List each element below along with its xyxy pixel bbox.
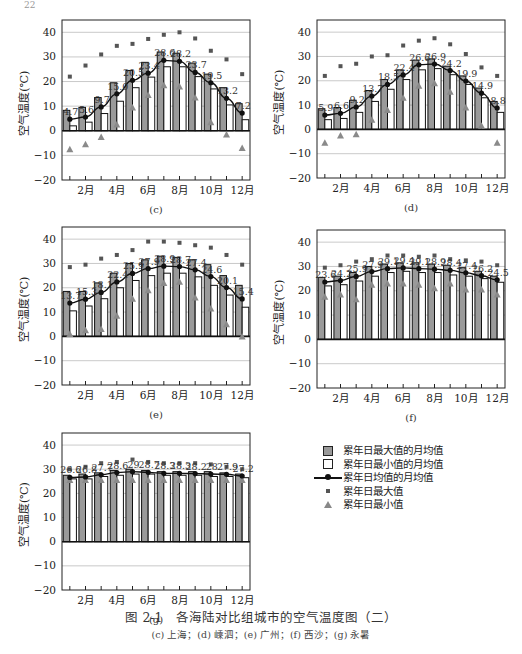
- x-tick-label: 2月: [332, 182, 349, 194]
- mean-point: [463, 78, 468, 83]
- y-axis-label: 空气温度(℃): [17, 482, 31, 547]
- x-tick-label: 8月: [426, 182, 443, 194]
- x-tick-label: 6月: [395, 182, 412, 194]
- extreme-max-marker: [323, 74, 327, 78]
- bar-max-mean: [173, 53, 180, 131]
- mean-point: [432, 61, 437, 66]
- extreme-max-marker: [131, 42, 135, 46]
- bar-max-mean: [236, 474, 243, 542]
- extreme-max-marker: [417, 39, 421, 43]
- bar-min-mean: [211, 476, 218, 541]
- extreme-max-marker: [225, 57, 229, 61]
- y-tick-label: −10: [34, 149, 56, 161]
- bar-min-mean: [356, 112, 363, 129]
- legend-item-daily-mean: 累年日均值的月均值: [313, 471, 443, 485]
- x-tick-label: 12月: [230, 594, 253, 606]
- x-tick-label: 2月: [77, 594, 94, 606]
- extreme-max-marker: [193, 36, 197, 40]
- extreme-min-marker: [321, 139, 328, 146]
- extreme-max-marker: [495, 74, 499, 78]
- bar-min-mean: [372, 101, 379, 129]
- extreme-max-marker: [68, 265, 72, 269]
- y-tick-label: 0: [49, 330, 56, 342]
- bar-min-mean: [403, 80, 410, 130]
- x-tick-label: 4月: [363, 392, 380, 404]
- mean-point: [322, 112, 327, 117]
- y-tick-label: −20: [34, 174, 56, 186]
- x-tick-label: 6月: [140, 594, 157, 606]
- bar-min-mean: [101, 476, 108, 541]
- y-tick-label: −10: [34, 354, 56, 366]
- bar-min-mean: [482, 279, 489, 340]
- bar-min-mean: [101, 114, 108, 131]
- mean-value-label: 14.9: [472, 80, 493, 91]
- extreme-max-marker: [209, 49, 213, 53]
- bar-min-mean: [70, 479, 77, 542]
- bar-max-mean: [350, 273, 357, 340]
- extreme-max-marker: [339, 64, 343, 68]
- extreme-min-marker: [239, 145, 246, 152]
- bar-min-mean: [117, 475, 124, 541]
- mean-value-label: 6.6: [334, 100, 349, 111]
- bar-min-mean: [435, 69, 442, 130]
- y-tick-label: −10: [34, 559, 56, 571]
- extreme-max-marker: [178, 241, 182, 245]
- extreme-max-marker: [354, 62, 358, 66]
- bar-min-mean: [86, 122, 93, 131]
- extreme-min-marker: [98, 133, 105, 140]
- x-tick-label: 2月: [77, 389, 94, 401]
- mean-point: [463, 270, 468, 275]
- x-tick-label: 4月: [363, 182, 380, 194]
- mean-point: [240, 473, 245, 478]
- mean-point: [161, 264, 166, 269]
- mean-point: [177, 59, 182, 64]
- y-tick-label: 30: [298, 50, 311, 62]
- mean-point: [83, 114, 88, 119]
- mean-point: [322, 279, 327, 284]
- bar-max-mean: [459, 76, 466, 129]
- mean-point: [385, 266, 390, 271]
- y-axis-label: 空气温度(℃): [17, 277, 31, 342]
- mean-value-label: 5.9: [318, 102, 333, 113]
- bar-max-mean: [397, 263, 404, 340]
- mean-value-label: 15.4: [233, 286, 254, 297]
- extreme-max-marker: [99, 52, 103, 56]
- mean-point: [208, 80, 213, 85]
- mean-point: [338, 111, 343, 116]
- extreme-max-marker: [240, 72, 244, 76]
- square-marker-icon: [313, 489, 343, 493]
- bar-min-mean: [164, 67, 171, 131]
- x-tick-label: 10月: [454, 182, 477, 194]
- y-tick-label: 20: [43, 487, 56, 499]
- bar-min-mean: [227, 295, 234, 336]
- mean-value-label: 4.7: [63, 106, 78, 117]
- mean-value-label: 8.8: [491, 95, 506, 106]
- bar-min-mean: [148, 77, 155, 131]
- extreme-max-marker: [162, 240, 166, 244]
- y-tick-label: 40: [298, 26, 311, 38]
- bar-max-mean: [79, 474, 86, 542]
- mean-point: [495, 277, 500, 282]
- x-tick-label: 10月: [199, 389, 222, 401]
- bar-max-mean: [381, 264, 388, 339]
- y-axis-label: 空气温度(℃): [272, 280, 286, 345]
- extreme-max-marker: [480, 65, 484, 69]
- extreme-max-marker: [225, 253, 229, 257]
- mean-value-label: 23.7: [186, 59, 207, 70]
- mean-point: [338, 278, 343, 283]
- bar-min-mean: [164, 475, 171, 541]
- x-tick-label: 12月: [485, 392, 508, 404]
- y-tick-label: 40: [43, 233, 56, 245]
- y-tick-label: 30: [43, 50, 56, 62]
- bar-min-mean: [227, 476, 234, 541]
- extreme-max-marker: [146, 240, 150, 244]
- mean-point: [146, 266, 151, 271]
- y-tick-label: 30: [43, 257, 56, 269]
- mean-value-label: 15.0: [107, 81, 128, 92]
- extreme-max-marker: [162, 33, 166, 37]
- mean-point: [401, 72, 406, 77]
- bar-min-mean: [180, 67, 187, 131]
- mean-point: [193, 267, 198, 272]
- mean-value-label: 5.6: [79, 104, 94, 115]
- y-tick-label: −20: [289, 172, 311, 184]
